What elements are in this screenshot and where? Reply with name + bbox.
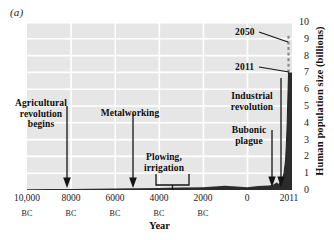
y-tick-9: 9 <box>293 34 309 44</box>
x-tick-6000bc: 6000 BC <box>92 193 138 219</box>
x-tick-4000bc-era: BC <box>136 208 182 219</box>
y-tick-2: 2 <box>293 151 309 161</box>
x-tick-0-value: 0 <box>245 193 250 203</box>
y-axis-ticks: 0 1 2 3 4 5 6 7 8 9 10 <box>293 22 311 190</box>
x-tick-2011-value: 2011 <box>280 193 299 203</box>
x-tick-4000bc: 4000 BC <box>136 193 182 219</box>
x-tick-4000bc-value: 4000 <box>150 193 169 203</box>
x-tick-2000bc-era: BC <box>180 208 226 219</box>
x-tick-8000bc: 8000 BC <box>48 193 94 219</box>
annotation-label-bubonic: Bubonic plague <box>221 125 277 146</box>
annotation-label-agricultural: Agricultural revolution begins <box>12 98 70 130</box>
y-tick-4: 4 <box>293 118 309 128</box>
y-tick-6: 6 <box>293 84 309 94</box>
x-tick-6000bc-value: 6000 <box>106 193 125 203</box>
y-tick-8: 8 <box>293 51 309 61</box>
y-tick-10: 10 <box>293 17 309 27</box>
x-tick-2000bc-value: 2000 <box>194 193 213 203</box>
x-tick-6000bc-era: BC <box>92 208 138 219</box>
y-tick-1: 1 <box>293 168 309 178</box>
x-tick-8000bc-value: 8000 <box>62 193 81 203</box>
x-tick-2000bc: 2000 BC <box>180 193 226 219</box>
annotation-label-metalworking: Metalworking <box>95 108 165 119</box>
panel-label: (a) <box>10 6 23 18</box>
x-tick-10000bc: 10,000 BC <box>4 193 50 219</box>
annotation-label-industrial: Industrial revolution <box>219 91 285 112</box>
x-tick-10000bc-era: BC <box>4 208 50 219</box>
x-tick-0: 0 <box>224 193 270 208</box>
y-tick-3: 3 <box>293 135 309 145</box>
callout-label-2050: 2050 <box>235 27 255 37</box>
y-axis-title: Human population size (billions) <box>314 6 328 196</box>
y-tick-7: 7 <box>293 67 309 77</box>
x-tick-8000bc-era: BC <box>48 208 94 219</box>
callout-label-2011: 2011 <box>235 62 254 72</box>
x-tick-2011: 2011 <box>266 193 312 208</box>
y-tick-5: 5 <box>293 101 309 111</box>
x-tick-10000bc-value: 10,000 <box>14 193 40 203</box>
figure-panel: (a) <box>0 0 334 240</box>
annotation-arrow-metalworking <box>129 114 137 188</box>
x-axis-title: Year <box>27 220 292 231</box>
annotation-label-plowing: Plowing, irrigation <box>138 152 190 173</box>
